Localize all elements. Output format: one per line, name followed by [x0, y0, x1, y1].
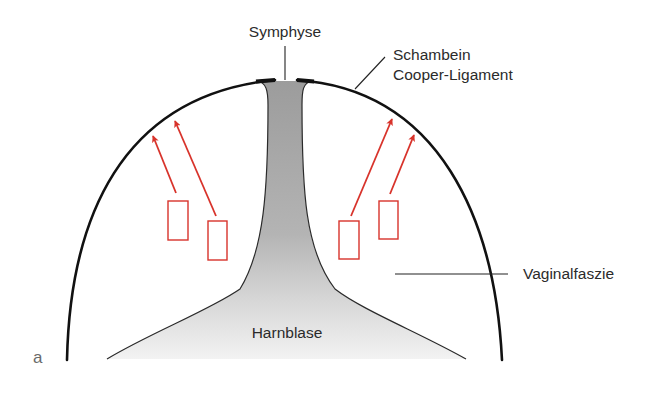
symphysis-left-edge — [256, 80, 275, 82]
suture-box-right-1 — [339, 221, 359, 259]
label-harnblase: Harnblase — [252, 324, 323, 341]
label-schambein: Schambein — [393, 46, 471, 63]
elevation-arrow-icon — [153, 136, 176, 193]
elevation-arrow-icon — [175, 121, 216, 216]
symphysis-right-edge — [297, 80, 314, 82]
suture-box-left-1 — [168, 201, 188, 240]
label-vaginalfaszie: Vaginalfaszie — [523, 265, 614, 282]
elevation-arrow-icon — [390, 135, 414, 194]
suture-box-right-2 — [379, 201, 398, 239]
schambein-leader-line — [355, 57, 385, 89]
panel-label: a — [33, 348, 43, 367]
label-cooper-ligament: Cooper-Ligament — [393, 66, 513, 83]
suture-box-left-2 — [208, 221, 227, 260]
anatomical-diagram: Symphyse Schambein Cooper-Ligament Vagin… — [0, 0, 653, 395]
label-symphyse: Symphyse — [249, 23, 321, 40]
